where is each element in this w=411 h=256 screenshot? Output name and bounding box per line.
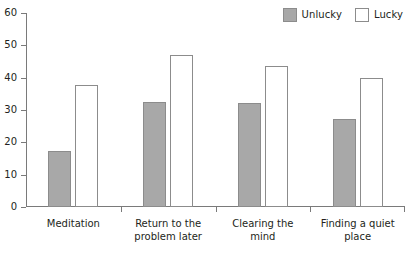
bar-lucky-3 (360, 78, 383, 207)
y-tick-label: 0 (11, 201, 17, 212)
plot-area: 0102030405060 (26, 13, 405, 207)
y-tick: 0 (21, 207, 26, 208)
x-tick (404, 207, 405, 212)
bar-unlucky-1 (143, 102, 166, 207)
bar-unlucky-3 (333, 119, 356, 207)
x-axis-label-3: Finding a quiet place (310, 213, 405, 253)
x-axis-label-0: Meditation (26, 213, 121, 253)
bar-lucky-0 (75, 85, 98, 207)
bar-unlucky-0 (48, 151, 71, 207)
y-tick-label: 10 (4, 169, 17, 180)
x-tick (216, 207, 217, 212)
x-tick (310, 207, 311, 212)
x-tick (121, 207, 122, 212)
bars-layer (26, 13, 405, 207)
bar-lucky-1 (170, 55, 193, 207)
bar-chart: Unlucky Lucky 0102030405060 MeditationRe… (0, 0, 411, 256)
bar-lucky-2 (265, 66, 288, 207)
y-tick-label: 50 (4, 39, 17, 50)
y-tick-label: 60 (4, 7, 17, 18)
y-tick-label: 40 (4, 72, 17, 83)
y-tick-label: 20 (4, 136, 17, 147)
x-axis-label-1: Return to the problem later (121, 213, 216, 253)
y-tick-label: 30 (4, 104, 17, 115)
x-axis-label-2: Clearing the mind (216, 213, 311, 253)
x-axis-category-labels: MeditationReturn to the problem laterCle… (26, 213, 405, 253)
bar-unlucky-2 (238, 103, 261, 207)
